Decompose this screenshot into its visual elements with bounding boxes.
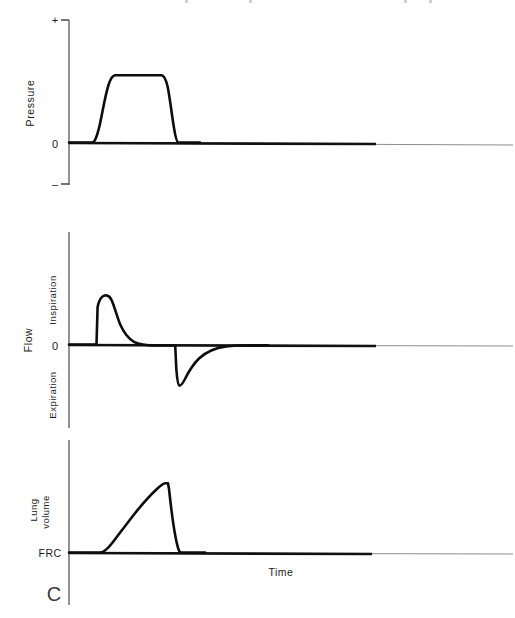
panel-pressure: + 0 – Pressure [24, 14, 513, 190]
pressure-tick-label-plus: + [52, 14, 58, 26]
pressure-baseline-thick [69, 143, 376, 144]
panel-letter-label: C [47, 583, 61, 605]
pressure-tick-label-minus: – [52, 178, 59, 190]
pressure-tick-label-zero: 0 [52, 138, 58, 150]
figure-canvas: + 0 – Pressure 0 Inspiration Expiration … [0, 0, 515, 618]
panel-lung-volume: FRC Lung volume Time C [28, 440, 513, 605]
panel-flow: 0 Inspiration Expiration Flow [22, 232, 513, 428]
lung-volume-y-axis-label-line1: Lung [28, 498, 39, 521]
lung-volume-trace [69, 483, 205, 552]
pressure-trace [69, 75, 200, 142]
flow-expiration-label: Expiration [47, 371, 58, 418]
x-axis-label-time: Time [269, 566, 294, 578]
lung-volume-baseline-thick [69, 553, 372, 554]
ventilation-waveform-figure: + 0 – Pressure 0 Inspiration Expiration … [0, 0, 515, 618]
pressure-y-axis-label: Pressure [24, 80, 36, 127]
lung-volume-y-axis-label-line2: volume [40, 495, 51, 529]
flow-tick-label-zero: 0 [52, 340, 58, 352]
flow-trace [69, 295, 268, 385]
flow-inspiration-label: Inspiration [47, 275, 58, 324]
flow-y-axis-label: Flow [22, 328, 34, 353]
lung-volume-tick-label-frc: FRC [39, 547, 62, 559]
